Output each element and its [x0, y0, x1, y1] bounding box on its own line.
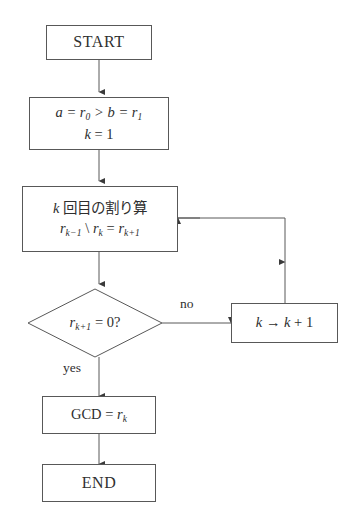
edge-label-yes: yes	[63, 360, 81, 376]
node-result-gcd[interactable]: GCD = rk	[42, 396, 156, 434]
init-r1-sub: 1	[137, 112, 142, 122]
process-eq: =	[103, 220, 118, 236]
decision-r-sub: k+1	[75, 322, 91, 332]
process-jp-text: 回目の割り算	[59, 200, 147, 216]
init-b: b	[108, 104, 115, 120]
process-r-prev-sub: k−1	[66, 227, 82, 237]
init-a: a	[56, 104, 63, 120]
node-decision[interactable]: rk+1 = 0?	[28, 289, 162, 357]
node-process-line1: k 回目の割り算	[53, 200, 147, 217]
process-divider: \	[82, 220, 93, 236]
init-k-value: = 1	[91, 126, 114, 142]
flowchart-canvas: START a = r0 > b = r1 k = 1 k 回目の割り算 rk−…	[0, 0, 358, 525]
result-eq: =	[102, 406, 117, 422]
init-eq1: =	[63, 104, 80, 120]
node-init[interactable]: a = r0 > b = r1 k = 1	[29, 97, 169, 150]
node-increment-label: k → k + 1	[256, 314, 313, 331]
node-end-label: END	[82, 474, 117, 493]
process-r-next-sub: k+1	[124, 227, 140, 237]
node-start-label: START	[73, 33, 124, 52]
node-result-label: GCD = rk	[71, 406, 127, 425]
decision-expression: rk+1 = 0?	[70, 314, 121, 332]
result-r-sub: k	[123, 413, 127, 423]
edge-label-no: no	[180, 296, 194, 312]
node-process-division[interactable]: k 回目の割り算 rk−1 \ rk = rk+1	[22, 186, 178, 252]
result-gcd-text: GCD	[71, 406, 102, 422]
node-init-line1: a = r0 > b = r1	[56, 104, 143, 123]
node-start[interactable]: START	[46, 25, 152, 60]
node-init-line2: k = 1	[84, 126, 113, 143]
increment-arrow-icon: →	[262, 314, 284, 330]
connector-lines	[0, 0, 358, 525]
decision-rest: = 0?	[91, 314, 120, 330]
init-gt: >	[90, 104, 107, 120]
increment-plus-one: + 1	[290, 314, 313, 330]
node-process-line2: rk−1 \ rk = rk+1	[60, 220, 140, 239]
node-increment[interactable]: k → k + 1	[231, 303, 338, 343]
node-end[interactable]: END	[42, 464, 156, 502]
init-eq2: =	[115, 104, 132, 120]
node-decision-label: rk+1 = 0?	[28, 289, 162, 357]
